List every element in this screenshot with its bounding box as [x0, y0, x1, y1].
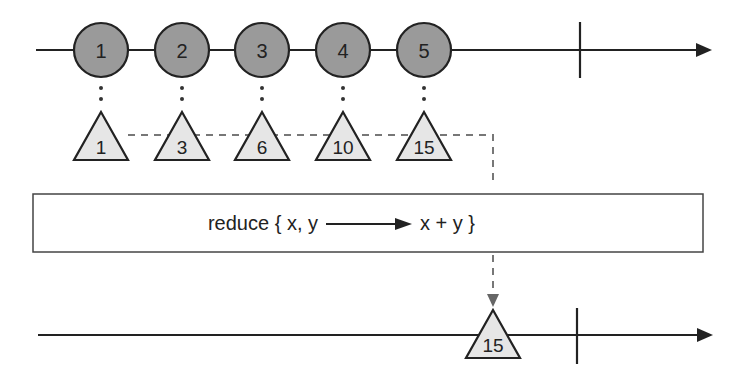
marble: 5: [397, 23, 451, 77]
accumulator-arrow-icon: [487, 294, 499, 307]
operator-result-label: x + y }: [420, 212, 475, 234]
marble-value: 4: [337, 40, 348, 62]
marble: 1: [74, 23, 128, 77]
value-label: 10: [332, 137, 353, 158]
value-label: 1: [96, 137, 107, 158]
marble-value: 2: [176, 40, 187, 62]
value-label: 3: [177, 137, 188, 158]
reduce-marble-diagram: 12345 1361015 reduce { x, y x + y } 15: [0, 0, 733, 384]
accumulated-triangle: 3: [155, 112, 209, 160]
source-timeline: [36, 22, 712, 78]
marble-value: 3: [256, 40, 267, 62]
timeline-arrow-icon: [696, 43, 712, 57]
marble: 2: [155, 23, 209, 77]
timeline-arrow-icon: [697, 328, 713, 342]
dotted-connectors: [99, 86, 426, 101]
value-label: 15: [482, 335, 503, 356]
marble: 4: [316, 23, 370, 77]
value-label: 15: [413, 137, 434, 158]
marble-value: 5: [418, 40, 429, 62]
marble-value: 1: [95, 40, 106, 62]
accumulated-triangle: 6: [235, 112, 289, 160]
value-label: 6: [257, 137, 268, 158]
operator-label: reduce { x, y: [208, 212, 318, 234]
accumulated-triangle: 1: [74, 112, 128, 160]
output-timeline: [38, 308, 713, 364]
operator-box: reduce { x, y x + y }: [33, 194, 703, 252]
marble: 3: [235, 23, 289, 77]
